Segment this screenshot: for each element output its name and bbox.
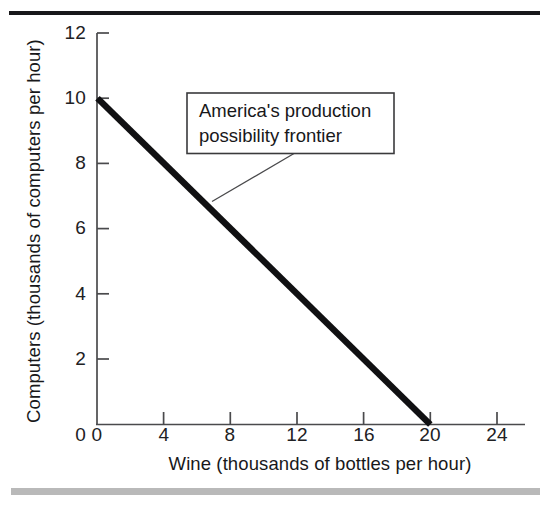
x-tick-label-20: 20 bbox=[410, 424, 450, 446]
x-tick-label-16: 16 bbox=[344, 424, 384, 446]
x-tick-label-8: 8 bbox=[210, 424, 250, 446]
y-tick-label-12: 12 bbox=[46, 22, 86, 44]
callout-line-1: America's production bbox=[199, 98, 389, 123]
ppf-figure: America's production possibility frontie… bbox=[0, 0, 554, 521]
x-tick-label-24: 24 bbox=[477, 424, 517, 446]
x-tick-label-4: 4 bbox=[144, 424, 184, 446]
y-tick-label-2: 2 bbox=[46, 348, 86, 370]
x-axis-title: Wine (thousands of bottles per hour) bbox=[120, 453, 520, 475]
callout-label: America's production possibility frontie… bbox=[199, 98, 389, 148]
bottom-divider-bar bbox=[11, 488, 540, 495]
callout-line-2: possibility frontier bbox=[199, 123, 389, 148]
y-tick-label-4: 4 bbox=[46, 283, 86, 305]
y-axis-title: Computers (thousands of computers per ho… bbox=[23, 31, 45, 431]
callout-leader-line bbox=[212, 154, 294, 202]
y-tick-label-6: 6 bbox=[46, 217, 86, 239]
y-tick-label-10: 10 bbox=[46, 87, 86, 109]
x-tick-label-0: 0 bbox=[77, 424, 117, 446]
y-tick-label-8: 8 bbox=[46, 152, 86, 174]
x-tick-label-12: 12 bbox=[277, 424, 317, 446]
